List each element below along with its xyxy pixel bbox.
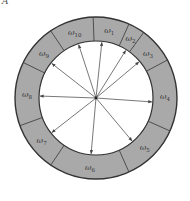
radial-arrow	[96, 98, 132, 141]
radial-arrow	[52, 98, 96, 132]
radial-arrows	[40, 42, 152, 153]
radial-arrow	[96, 98, 152, 102]
radial-arrow	[79, 45, 96, 98]
radial-arrow	[91, 98, 96, 154]
center-point	[95, 97, 98, 100]
radial-arrow	[40, 96, 96, 98]
radial-arrow	[52, 64, 96, 98]
circular-partition-diagram: ω1ω2ω3ω4ω5ω6ω7ω8ω9ω10	[0, 0, 190, 201]
radial-arrow	[96, 62, 139, 98]
